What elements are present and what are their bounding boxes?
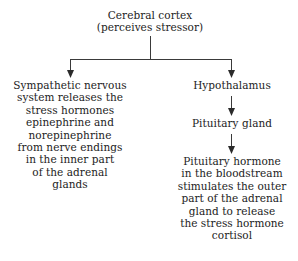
arrowhead-hypothalamus: [228, 70, 235, 78]
node-pituitary-gland: Pituitary gland: [172, 117, 292, 129]
arrowhead-sympathetic: [67, 70, 74, 78]
arrowhead-pituitary-gland: [228, 108, 235, 116]
flow-diagram: Cerebral cortex (perceives stressor) Sym…: [0, 0, 298, 261]
node-cerebral-cortex: Cerebral cortex (perceives stressor): [69, 9, 231, 34]
node-pituitary-hormone: Pituitary hormone in the bloodstream sti…: [162, 155, 298, 242]
arrowhead-pituitary-hormone: [228, 146, 235, 154]
node-sympathetic-nervous-system: Sympathetic nervous system releases the …: [4, 79, 136, 191]
node-hypothalamus: Hypothalamus: [172, 79, 292, 91]
